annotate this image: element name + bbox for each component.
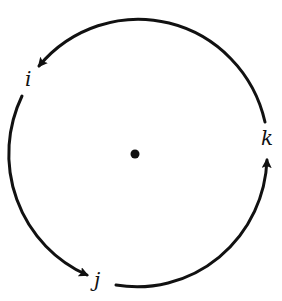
arc-k-to-i	[39, 19, 265, 122]
arc-j-to-k	[116, 160, 267, 287]
arc-i-to-j	[9, 96, 87, 275]
center-dot	[131, 150, 140, 159]
cycle-diagram: i j k	[0, 0, 282, 301]
label-j: j	[90, 268, 100, 292]
label-i: i	[25, 67, 31, 91]
label-k: k	[261, 126, 273, 150]
